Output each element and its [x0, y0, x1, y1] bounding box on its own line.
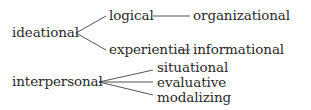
- node-logical: logical: [109, 9, 154, 23]
- node-interpersonal: interpersonal: [12, 75, 103, 89]
- node-modalizing: modalizing: [157, 91, 231, 105]
- edge-ideational-logical: [76, 16, 106, 33]
- edge-interpersonal-modalizing: [99, 82, 153, 95]
- node-informational: informational: [193, 43, 284, 57]
- node-evaluative: evaluative: [157, 76, 226, 90]
- edge-ideational-experiential: [76, 33, 106, 50]
- node-situational: situational: [157, 61, 228, 75]
- edge-interpersonal-situational: [99, 70, 153, 82]
- node-experiential: experiential: [109, 43, 190, 57]
- node-ideational: ideational: [12, 26, 79, 40]
- node-organizational: organizational: [193, 9, 290, 23]
